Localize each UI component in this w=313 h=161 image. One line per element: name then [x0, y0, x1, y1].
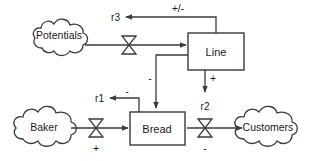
sign-label-line-to-r3: +/- — [172, 2, 185, 14]
rate-label-r2: r2 — [201, 101, 210, 112]
influence-line-to-bread — [156, 55, 188, 108]
rate-label-r3: r3 — [111, 12, 120, 23]
stock-label-line: Line — [206, 46, 227, 58]
cloud-label-potentials: Potentials — [36, 29, 82, 41]
diagram-canvas: Potentials Baker Customers Line Bread r3… — [0, 0, 313, 161]
influence-bread-to-r1 — [110, 98, 139, 112]
influence-line-to-r3 — [126, 17, 216, 33]
stock-label-bread: Bread — [142, 123, 171, 135]
sign-label-r1-polarity: + — [93, 142, 99, 154]
rate-label-r1: r1 — [95, 93, 104, 104]
sign-label-r2-polarity: - — [203, 142, 207, 154]
sign-label-bread-to-r1: - — [125, 85, 129, 97]
cloud-label-baker: Baker — [30, 121, 58, 133]
sign-label-line-to-bread: - — [148, 72, 152, 84]
sign-label-line-to-r2: + — [210, 72, 216, 84]
cloud-label-customers: Customers — [243, 121, 294, 133]
diagram-svg: Potentials Baker Customers Line Bread r3… — [0, 0, 313, 161]
